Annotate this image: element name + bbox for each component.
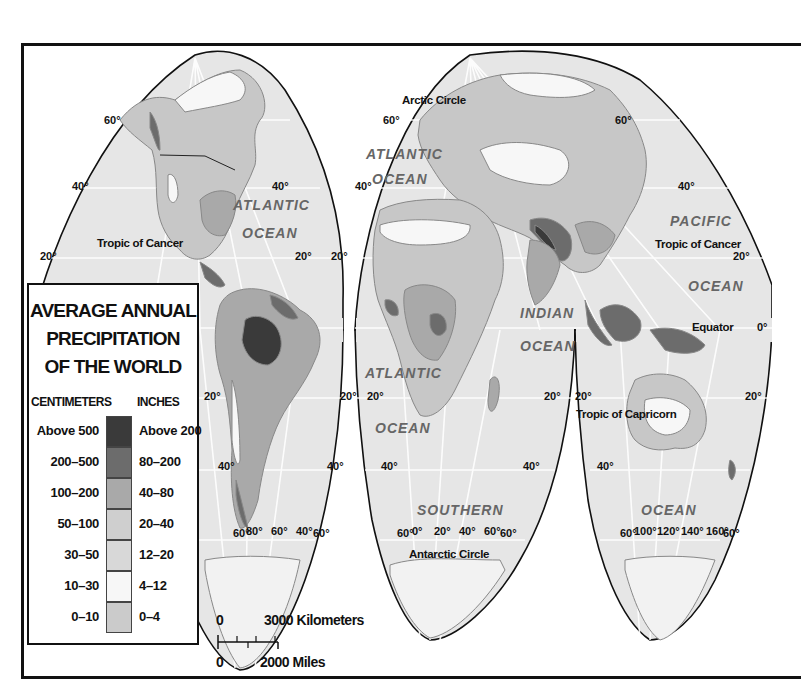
legend-swatch (106, 478, 132, 509)
legend-row: 30–50 12–20 (29, 540, 197, 571)
svg-text:Tropic of Cancer: Tropic of Cancer (655, 238, 742, 250)
svg-text:60°: 60° (271, 525, 288, 537)
svg-text:Antarctic Circle: Antarctic Circle (409, 548, 489, 560)
scale-km-label: 3000 Kilometers (264, 612, 364, 628)
svg-text:INDIAN: INDIAN (520, 305, 574, 321)
svg-text:40°: 40° (327, 460, 344, 472)
legend-in-value: Above 200 (139, 423, 201, 438)
legend-title-line-1: AVERAGE ANNUAL (29, 299, 197, 323)
svg-text:20°: 20° (331, 250, 348, 262)
legend-in-value: 80–200 (139, 454, 181, 469)
svg-text:OCEAN: OCEAN (688, 278, 744, 294)
legend-cm-value: 200–500 (50, 454, 99, 469)
svg-text:OCEAN: OCEAN (641, 502, 697, 518)
legend-inches-header: INCHES (137, 395, 179, 409)
legend-cm-value: Above 500 (37, 423, 99, 438)
svg-text:140°: 140° (681, 525, 704, 537)
svg-text:OCEAN: OCEAN (242, 225, 298, 241)
legend-swatch (106, 540, 132, 571)
legend-row: 50–100 20–40 (29, 509, 197, 540)
svg-text:60°: 60° (500, 527, 517, 539)
precipitation-legend: AVERAGE ANNUAL PRECIPITATION OF THE WORL… (27, 283, 199, 645)
svg-text:PACIFIC: PACIFIC (670, 213, 732, 229)
svg-text:20°: 20° (340, 390, 357, 402)
legend-cm-value: 0–10 (71, 609, 99, 624)
svg-text:40°: 40° (296, 525, 313, 537)
svg-text:OCEAN: OCEAN (372, 171, 428, 187)
svg-text:20°: 20° (733, 250, 750, 262)
svg-text:60°: 60° (484, 525, 501, 537)
svg-text:SOUTHERN: SOUTHERN (417, 502, 504, 518)
legend-row: 10–30 4–12 (29, 571, 197, 602)
scale-ruler (216, 632, 286, 652)
legend-row: 0–10 0–4 (29, 602, 197, 633)
svg-text:20°: 20° (295, 250, 312, 262)
svg-text:20°: 20° (204, 390, 221, 402)
svg-text:ATLANTIC: ATLANTIC (364, 365, 442, 381)
svg-text:40°: 40° (523, 460, 540, 472)
svg-text:40°: 40° (72, 180, 89, 192)
svg-text:20°: 20° (40, 250, 57, 262)
legend-row: Above 500 Above 200 (29, 416, 197, 447)
legend-centimeters-header: CENTIMETERS (31, 395, 112, 409)
svg-text:ATLANTIC: ATLANTIC (365, 146, 443, 162)
legend-in-value: 0–4 (139, 609, 160, 624)
svg-text:40°: 40° (597, 460, 614, 472)
scale-km-zero: 0 (216, 612, 223, 628)
svg-text:Tropic of Cancer: Tropic of Cancer (97, 237, 184, 249)
svg-text:100°: 100° (634, 525, 657, 537)
legend-title-line-3: OF THE WORLD (29, 355, 197, 379)
scale-mi-zero: 0 (216, 654, 223, 670)
legend-row: 100–200 40–80 (29, 478, 197, 509)
svg-text:40°: 40° (355, 180, 372, 192)
scale-bar: 0 3000 Kilometers 0 2000 Miles (212, 612, 372, 674)
svg-text:ATLANTIC: ATLANTIC (232, 197, 310, 213)
legend-cm-value: 50–100 (57, 516, 99, 531)
legend-swatch (106, 416, 132, 447)
svg-text:60°: 60° (383, 114, 400, 126)
svg-text:20°: 20° (434, 525, 451, 537)
svg-text:60°: 60° (313, 527, 330, 539)
svg-text:120°: 120° (657, 525, 680, 537)
svg-text:40°: 40° (381, 460, 398, 472)
legend-row: 200–500 80–200 (29, 447, 197, 478)
svg-text:40°: 40° (459, 525, 476, 537)
legend-swatch (106, 602, 132, 633)
svg-text:20°: 20° (367, 390, 384, 402)
svg-text:0°: 0° (412, 525, 423, 537)
legend-cm-value: 10–30 (64, 578, 99, 593)
svg-text:20°: 20° (544, 390, 561, 402)
svg-text:40°: 40° (272, 180, 289, 192)
legend-swatch (106, 509, 132, 540)
legend-in-value: 12–20 (139, 547, 174, 562)
svg-text:0°: 0° (757, 321, 768, 333)
legend-swatch (106, 447, 132, 478)
legend-in-value: 20–40 (139, 516, 174, 531)
svg-text:20°: 20° (575, 390, 592, 402)
svg-text:Tropic of Capricorn: Tropic of Capricorn (576, 408, 677, 420)
legend-in-value: 4–12 (139, 578, 167, 593)
svg-text:Arctic Circle: Arctic Circle (402, 94, 466, 106)
legend-swatch (106, 571, 132, 602)
svg-text:80°: 80° (246, 525, 263, 537)
svg-text:40°: 40° (218, 460, 235, 472)
svg-text:40°: 40° (678, 180, 695, 192)
svg-text:60°: 60° (615, 114, 632, 126)
legend-cm-value: 100–200 (50, 485, 99, 500)
svg-text:OCEAN: OCEAN (375, 420, 431, 436)
legend-title-line-2: PRECIPITATION (29, 327, 197, 351)
scale-mi-label: 2000 Miles (260, 654, 325, 670)
svg-text:Equator: Equator (692, 321, 734, 333)
legend-cm-value: 30–50 (64, 547, 99, 562)
legend-in-value: 40–80 (139, 485, 174, 500)
svg-text:20°: 20° (745, 390, 762, 402)
svg-text:60°: 60° (104, 114, 121, 126)
svg-text:OCEAN: OCEAN (520, 338, 576, 354)
svg-text:60°: 60° (723, 527, 740, 539)
